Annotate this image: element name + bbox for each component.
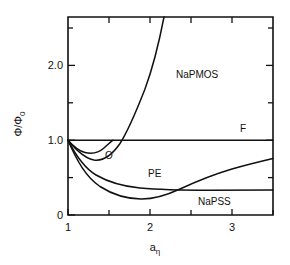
svg-text:Φ/Φ0: Φ/Φ0 [12,111,27,137]
y-tick-label-2: 2.0 [48,59,63,71]
curve-label-NaPMOS: NaPMOS [176,69,219,80]
curve-NaPMOS [68,17,164,160]
x-axis-title: aη [150,241,161,256]
y-axis-ticks [68,28,75,215]
curve-label-NaPSS: NaPSS [198,196,231,207]
x-tick-label-3: 3 [229,221,235,233]
y-axis-title-base: Φ/Φ [12,116,24,137]
y-axis-title-sub: 0 [18,111,27,116]
top-axis-ticks [109,17,232,23]
x-axis-ticks [68,209,273,215]
right-axis-ticks [266,28,273,178]
curve-PE [68,140,273,190]
curve-label-F: F [240,123,246,134]
y-axis-title: Φ/Φ0 [12,111,27,137]
x-tick-label-2: 2 [147,221,153,233]
x-axis-title-sub: η [156,247,160,256]
chart-figure: 2.0 1.0 0 1 2 3 Φ/Φ0 aη NaPMOS F O PE Na… [0,0,290,265]
x-tick-label-1: 1 [65,221,71,233]
y-tick-label-0: 0 [57,209,63,221]
curve-label-PE: PE [148,168,162,179]
curve-label-O: O [105,150,113,161]
y-tick-label-1: 1.0 [48,134,63,146]
